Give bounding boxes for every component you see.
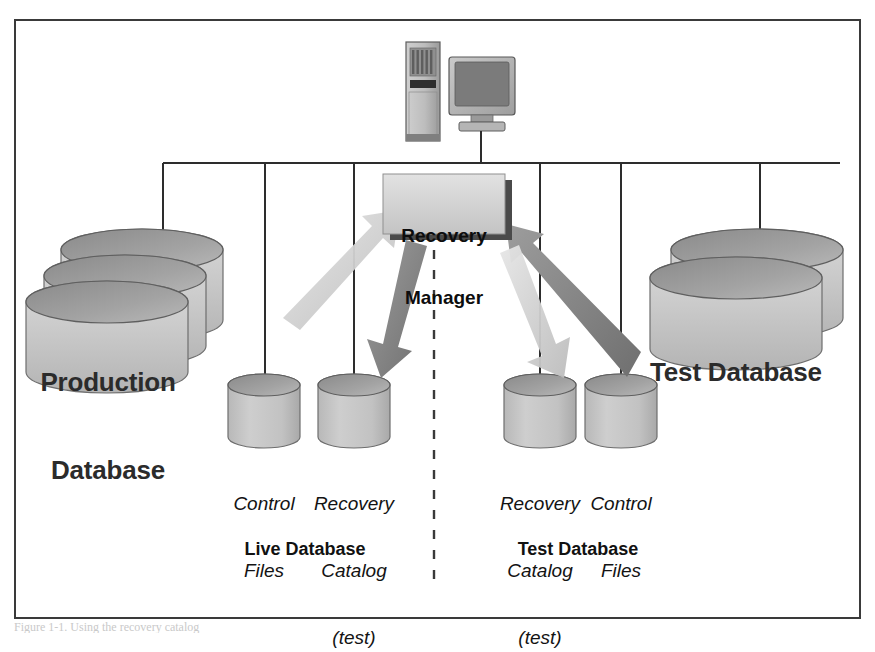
control-files-test-label: Control Files xyxy=(564,448,678,627)
section-label-test-database: Test Database xyxy=(478,539,678,559)
small-cylinder-recovery-catalog-test xyxy=(504,374,576,448)
production-database-label-line1: Production xyxy=(22,368,194,397)
tower-base-strip xyxy=(406,134,440,141)
production-database-label-line2: Database xyxy=(22,456,194,485)
recovery-catalog-test-line3: (test) xyxy=(483,627,597,649)
control-files-test-line1: Control xyxy=(564,493,678,515)
section-label-live-database: Live Database xyxy=(205,539,405,559)
recovery-manager-label-line1: Recovery xyxy=(383,226,505,247)
small-cylinder-recovery-catalog-live xyxy=(318,374,390,448)
figure-caption: Figure 1-1. Using the recovery catalog xyxy=(14,620,444,633)
recovery-catalog-live-line2: Catalog xyxy=(297,560,411,582)
recovery-catalog-live-line1: Recovery xyxy=(297,493,411,515)
recovery-manager-label: Recovery Manager xyxy=(383,184,505,351)
recovery-manager-label-line2: Manager xyxy=(383,288,505,309)
tower-drive-bay xyxy=(410,80,436,88)
monitor-base xyxy=(459,122,505,131)
production-database-label: Production Database xyxy=(22,310,194,543)
monitor-neck xyxy=(471,115,493,122)
test-database-large-label: Test Database xyxy=(650,300,822,446)
workstation-group xyxy=(406,42,515,141)
small-stores-group xyxy=(228,374,657,448)
test-database-large-label-line1: Test Database xyxy=(650,358,822,387)
small-cylinder-control-files-test xyxy=(585,374,657,448)
control-files-test-line2: Files xyxy=(564,560,678,582)
monitor-screen xyxy=(455,62,509,106)
small-cylinder-control-files-live xyxy=(228,374,300,448)
